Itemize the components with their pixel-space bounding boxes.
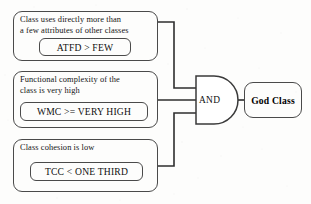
condition-box-tcc[interactable]: Class cohesion is low TCC < ONE THIRD: [13, 139, 158, 192]
condition-text-tcc: Class cohesion is low: [20, 143, 153, 154]
metric-box-tcc[interactable]: TCC < ONE THIRD: [30, 162, 143, 181]
condition-line: Class cohesion is low: [20, 143, 153, 154]
metric-label-atfd: ATFD > FEW: [57, 42, 113, 53]
condition-box-atfd[interactable]: Class uses directly more than a few attr…: [13, 11, 158, 61]
condition-text-atfd: Class uses directly more than a few attr…: [20, 15, 153, 36]
condition-text-wmc: Functional complexity of the class is ve…: [20, 75, 153, 96]
condition-line: class is very high: [20, 86, 153, 97]
metric-box-atfd[interactable]: ATFD > FEW: [39, 38, 131, 56]
output-node-god-class[interactable]: God Class: [244, 82, 302, 118]
wire-atfd-to-gate: [158, 22, 196, 88]
metric-box-wmc[interactable]: WMC >= VERY HIGH: [20, 102, 148, 121]
wire-tcc-to-gate: [158, 113, 196, 166]
and-gate-label: AND: [199, 95, 220, 105]
metric-label-tcc: TCC < ONE THIRD: [45, 166, 128, 177]
condition-line: Class uses directly more than: [20, 15, 153, 26]
metric-label-wmc: WMC >= VERY HIGH: [37, 106, 131, 117]
output-node-label: God Class: [251, 95, 295, 106]
diagram-canvas: AND Class uses directly more than a few …: [0, 0, 311, 204]
condition-line: Functional complexity of the: [20, 75, 153, 86]
condition-line: a few attributes of other classes: [20, 26, 153, 37]
condition-box-wmc[interactable]: Functional complexity of the class is ve…: [13, 71, 158, 128]
